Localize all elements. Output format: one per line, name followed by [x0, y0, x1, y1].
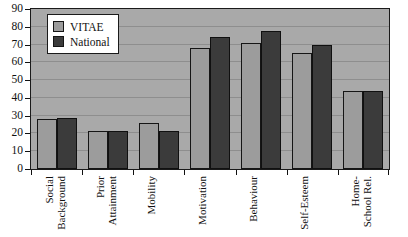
- bar-group: [190, 9, 230, 169]
- y-axis-tick-label: 0: [0, 163, 23, 175]
- bar-vitae: [241, 43, 261, 169]
- x-axis-tick-mark: [287, 170, 288, 175]
- bar-group: [241, 9, 281, 169]
- y-axis-tick-label: 70: [0, 39, 23, 51]
- bar-group: [139, 9, 179, 169]
- legend-swatch-vitae: [53, 21, 64, 32]
- y-axis-tick-label: 30: [0, 110, 23, 122]
- x-axis-tick-mark: [236, 170, 237, 175]
- x-axis-category-label: Behaviour: [248, 176, 272, 237]
- legend-item: VITAE: [53, 19, 110, 34]
- x-axis-category-label: Prior Attainment: [95, 176, 119, 237]
- x-axis-labels: Social BackgroundPrior AttainmentMobilit…: [30, 176, 390, 237]
- bar-vitae: [190, 48, 210, 169]
- grouped-bar-chart: 0102030405060708090 VITAENational Social…: [0, 0, 408, 237]
- x-axis-category-label: Self-Esteem: [299, 176, 323, 237]
- x-axis-tick-mark: [338, 170, 339, 175]
- y-axis-tick-label: 50: [0, 74, 23, 86]
- x-axis-category-label: Mobility: [146, 176, 170, 237]
- y-axis-tick-label: 10: [0, 145, 23, 157]
- y-axis-tick-label: 90: [0, 3, 23, 15]
- y-axis-tick-label: 60: [0, 57, 23, 69]
- bar-vitae: [292, 53, 312, 169]
- x-axis-category-label: Social Background: [44, 176, 68, 237]
- x-axis-tick-mark: [31, 170, 32, 175]
- y-axis-tick-label: 20: [0, 128, 23, 140]
- plot-area: VITAENational: [30, 8, 390, 170]
- bar-group: [343, 9, 383, 169]
- x-axis-category-label: Motivation: [197, 176, 221, 237]
- x-axis-tick-mark: [388, 170, 389, 175]
- bar-national: [210, 37, 230, 169]
- bar-national: [108, 131, 128, 169]
- legend-label: National: [70, 36, 110, 48]
- x-axis-category-label: Home- School Rel.: [350, 176, 374, 237]
- legend-item: National: [53, 34, 110, 49]
- legend-label: VITAE: [70, 21, 104, 33]
- y-axis-tick-label: 40: [0, 92, 23, 104]
- y-axis-tick-label: 80: [0, 21, 23, 33]
- bar-group: [292, 9, 332, 169]
- bar-national: [363, 91, 383, 169]
- bar-vitae: [88, 131, 108, 169]
- legend-swatch-national: [53, 36, 64, 47]
- bar-vitae: [139, 123, 159, 169]
- x-axis-tick-mark: [133, 170, 134, 175]
- x-axis-tick-mark: [82, 170, 83, 175]
- bar-vitae: [343, 91, 363, 169]
- bar-national: [312, 45, 332, 169]
- bar-national: [261, 31, 281, 169]
- y-axis: 0102030405060708090: [0, 0, 30, 180]
- legend: VITAENational: [47, 14, 119, 54]
- x-axis-tick-mark: [184, 170, 185, 175]
- bar-national: [159, 131, 179, 169]
- bar-national: [57, 118, 77, 169]
- bar-vitae: [37, 119, 57, 169]
